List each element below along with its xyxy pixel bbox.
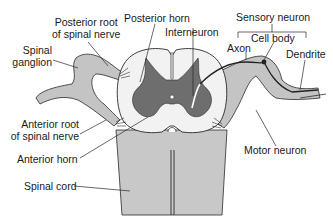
label-cell-body: Cell body (251, 32, 295, 44)
label-interneuron: Interneuron (165, 26, 219, 38)
label-dendrite: Dendrite (286, 48, 326, 60)
cell-body-dot (262, 60, 267, 65)
label-anterior-horn: Anterior horn (17, 153, 78, 165)
label-anterior-root-line2: of spinal nerve (4, 130, 79, 142)
label-spinal-ganglion-line1: Spinal (12, 44, 52, 56)
label-axon: Axon (227, 42, 251, 54)
label-spinal-ganglion-line2: ganglion (12, 56, 52, 68)
label-motor-neuron: Motor neuron (244, 144, 306, 156)
right-spinal-nerve (218, 56, 320, 128)
label-anterior-root-line1: Anterior root (4, 118, 79, 130)
label-posterior-root-line1: Posterior root (52, 16, 120, 28)
label-spinal-cord: Spinal cord (24, 180, 77, 192)
label-posterior-horn: Posterior horn (124, 12, 190, 24)
label-anterior-root: Anterior root of spinal nerve (4, 118, 79, 142)
label-posterior-root-line2: of spinal nerve (52, 28, 120, 40)
label-spinal-ganglion: Spinal ganglion (12, 44, 52, 68)
label-sensory-neuron: Sensory neuron (236, 11, 310, 23)
label-posterior-root: Posterior root of spinal nerve (52, 16, 120, 40)
spinal-cord-diagram: Posterior root of spinal nerve Posterior… (0, 0, 333, 216)
spinal-cord-body (116, 130, 227, 215)
